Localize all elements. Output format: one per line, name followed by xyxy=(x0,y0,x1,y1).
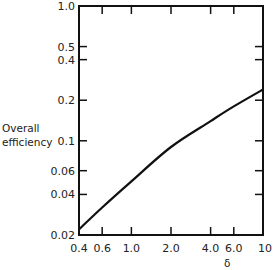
y-tick-label: 0.5 xyxy=(58,41,76,54)
y-tick-label: 0.04 xyxy=(51,188,76,201)
y-tick-label: 0.2 xyxy=(58,94,76,107)
plot-frame xyxy=(79,6,263,235)
y-tick-label: 0.1 xyxy=(58,135,76,148)
x-tick-label: 6.0 xyxy=(225,242,243,255)
y-tick-label: 0.02 xyxy=(51,229,76,242)
x-axis-title: δ xyxy=(224,257,230,269)
x-tick-label: 1.0 xyxy=(123,242,141,255)
y-tick-label: 1.0 xyxy=(58,0,76,13)
plot-border xyxy=(79,6,263,235)
y-tick-label: 0.4 xyxy=(58,54,76,67)
y-tick-label: 0.06 xyxy=(51,165,76,178)
y-axis-ticks: 0.020.040.060.10.20.40.51.0 xyxy=(51,0,264,242)
y-axis-title-line1: Overall xyxy=(2,122,40,134)
x-tick-label: 2.0 xyxy=(162,242,180,255)
x-tick-label: 4.0 xyxy=(202,242,220,255)
x-tick-label: 0.6 xyxy=(93,242,111,255)
efficiency-curve xyxy=(79,90,263,230)
x-tick-label: 0.4 xyxy=(70,242,88,255)
x-tick-label: 10 xyxy=(258,242,272,255)
y-axis-title-line2: efficiency xyxy=(2,136,52,148)
efficiency-chart: 0.020.040.060.10.20.40.51.0 0.40.61.02.0… xyxy=(0,0,275,270)
x-axis-ticks: 0.40.61.02.04.06.010 xyxy=(70,6,272,255)
